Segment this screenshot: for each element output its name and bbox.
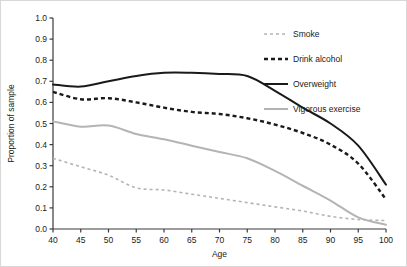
y-tick-label: 0.4 xyxy=(35,140,47,150)
y-tick-label: 0.3 xyxy=(35,161,47,171)
legend-label-drink-alcohol: Drink alcohol xyxy=(293,54,342,64)
legend-label-smoke: Smoke xyxy=(293,29,320,39)
series-line-overweight xyxy=(53,73,386,185)
y-tick-label: 0.9 xyxy=(35,34,47,44)
series-line-vigorous-exercise xyxy=(53,121,386,224)
x-tick-label: 80 xyxy=(270,235,280,245)
legend-label-overweight: Overweight xyxy=(293,79,337,89)
y-tick-label: 1.0 xyxy=(35,13,47,23)
x-axis-title: Age xyxy=(212,249,227,259)
series-line-smoke xyxy=(53,158,386,220)
y-tick-label: 0.2 xyxy=(35,182,47,192)
y-tick-label: 0.6 xyxy=(35,97,47,107)
y-tick-label: 0.1 xyxy=(35,203,47,213)
x-tick-label: 100 xyxy=(379,235,393,245)
x-tick-label: 50 xyxy=(104,235,114,245)
x-tick-label: 90 xyxy=(326,235,336,245)
y-tick-label: 0.8 xyxy=(35,55,47,65)
chart-figure: 0.00.10.20.30.40.50.60.70.80.91.04045505… xyxy=(0,0,407,267)
x-tick-label: 45 xyxy=(76,235,86,245)
x-tick-label: 70 xyxy=(215,235,225,245)
x-tick-label: 85 xyxy=(298,235,308,245)
x-tick-label: 65 xyxy=(187,235,197,245)
chart-canvas: 0.00.10.20.30.40.50.60.70.80.91.04045505… xyxy=(1,1,407,267)
x-tick-label: 55 xyxy=(132,235,142,245)
x-tick-label: 95 xyxy=(354,235,364,245)
legend-label-vigorous-exercise: Vigorous exercise xyxy=(293,104,361,114)
y-axis-title: Proportion of sample xyxy=(6,84,16,163)
y-tick-label: 0.7 xyxy=(35,76,47,86)
x-tick-label: 60 xyxy=(159,235,169,245)
x-tick-label: 40 xyxy=(48,235,58,245)
y-tick-label: 0.0 xyxy=(35,224,47,234)
y-tick-label: 0.5 xyxy=(35,119,47,129)
x-tick-label: 75 xyxy=(243,235,253,245)
